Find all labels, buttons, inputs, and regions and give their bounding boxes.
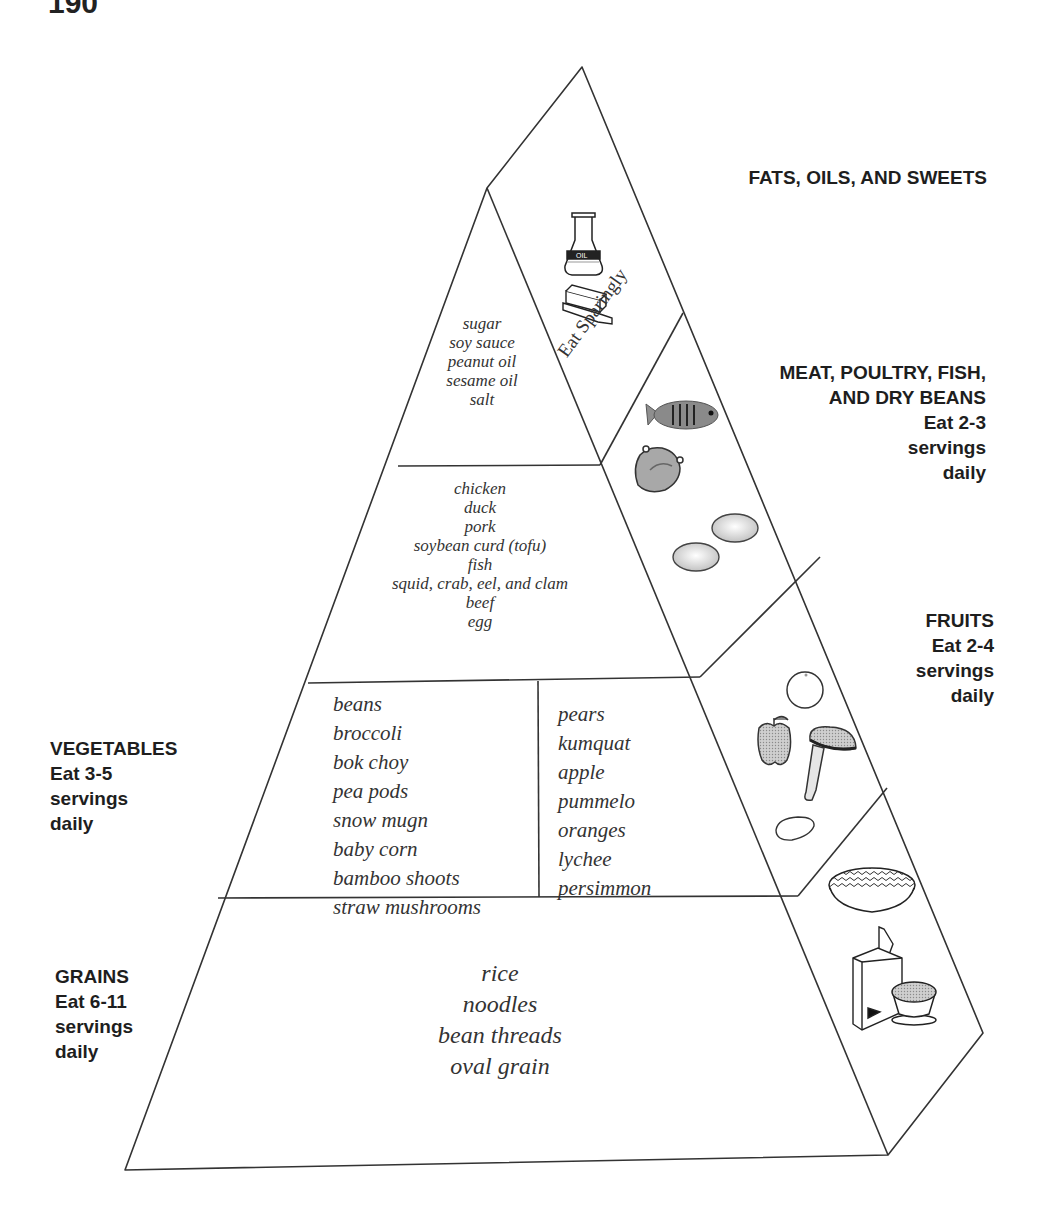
food-item: pears <box>558 700 651 729</box>
food-item: bean threads <box>400 1020 600 1051</box>
food-item: pea pods <box>333 777 481 806</box>
food-item: persimmon <box>558 874 651 903</box>
food-item: kumquat <box>558 729 651 758</box>
tier-label-fats: FATS, OILS, AND SWEETS <box>748 165 987 190</box>
divider-veg-fruits <box>538 681 539 897</box>
tier-label-fruits: FRUITS Eat 2-4 servings daily <box>916 608 994 708</box>
food-item: baby corn <box>333 835 481 864</box>
food-item: snow mugn <box>333 806 481 835</box>
foods-list-meat: chicken duck pork soybean curd (tofu) fi… <box>370 479 590 631</box>
food-item: pork <box>370 517 590 536</box>
svg-text:OIL: OIL <box>576 252 587 259</box>
egg-icon <box>712 514 758 542</box>
tier-label-grains: GRAINS Eat 6-11 servings daily <box>55 964 133 1064</box>
food-item: rice <box>400 958 600 989</box>
food-item: straw mushrooms <box>333 893 481 922</box>
food-item: salt <box>419 390 545 409</box>
egg-icon <box>673 543 719 571</box>
food-item: peanut oil <box>419 352 545 371</box>
foods-list-grains: rice noodles bean threads oval grain <box>400 958 600 1082</box>
food-item: chicken <box>370 479 590 498</box>
orange-icon <box>787 672 823 708</box>
food-item: lychee <box>558 845 651 874</box>
food-item: oranges <box>558 816 651 845</box>
tier-label-meat: MEAT, POULTRY, FISH, AND DRY BEANS Eat 2… <box>779 360 986 485</box>
food-item: oval grain <box>400 1051 600 1082</box>
divider-fats-meat <box>398 465 600 466</box>
food-item: squid, crab, eel, and clam <box>370 574 590 593</box>
foods-list-fats: sugar soy sauce peanut oil sesame oil sa… <box>419 314 545 409</box>
food-item: bok choy <box>333 748 481 777</box>
tier-label-vegetables: VEGETABLES Eat 3-5 servings daily <box>50 736 177 836</box>
foods-list-vegetables: beans broccoli bok choy pea pods snow mu… <box>333 690 481 922</box>
rice-bowl-icon <box>892 982 936 1025</box>
food-item: egg <box>370 612 590 631</box>
food-item: sesame oil <box>419 371 545 390</box>
food-item: soy sauce <box>419 333 545 352</box>
food-item: soybean curd (tofu) <box>370 536 590 555</box>
foods-list-fruits: pears kumquat apple pummelo oranges lych… <box>558 700 651 903</box>
food-item: beans <box>333 690 481 719</box>
food-item: noodles <box>400 989 600 1020</box>
food-item: sugar <box>419 314 545 333</box>
food-item: apple <box>558 758 651 787</box>
food-item: beef <box>370 593 590 612</box>
food-item: fish <box>370 555 590 574</box>
food-item: duck <box>370 498 590 517</box>
food-item: bamboo shoots <box>333 864 481 893</box>
food-item: broccoli <box>333 719 481 748</box>
food-item: pummelo <box>558 787 651 816</box>
